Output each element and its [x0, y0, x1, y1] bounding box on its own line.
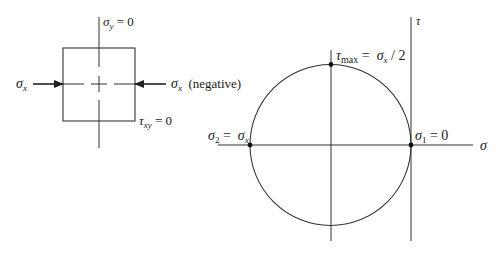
sigma-x-left-label: σx	[16, 76, 27, 93]
mohr-circle-plot: τ σ τmax = σx / 2 σ2 = σx σ1 = 0	[208, 14, 488, 241]
sigma-axis-label: σ	[480, 138, 488, 153]
sigma-1-label: σ1 = 0	[415, 128, 448, 145]
sigma-x-right-label: σx (negative)	[171, 76, 241, 93]
tau-max-label: τmax = σx / 2	[336, 48, 405, 65]
tau-xy-label: τxy = 0	[139, 113, 172, 130]
tau-max-point	[329, 62, 334, 67]
sigma-2-label: σ2 = σx	[208, 128, 249, 145]
sigma-1-point	[409, 143, 414, 148]
sigma-y-label: σy = 0	[103, 14, 134, 31]
tau-axis-label: τ	[416, 14, 421, 28]
mohr-circle-diagram: σy = 0 σx σx (negative) τxy = 0 τ σ τmax…	[0, 0, 503, 253]
